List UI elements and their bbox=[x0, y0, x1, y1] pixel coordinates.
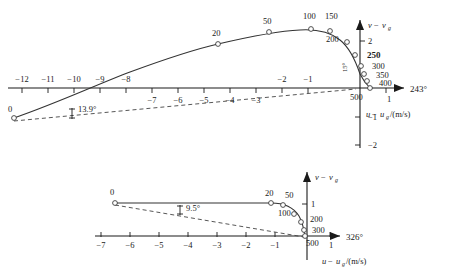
svg-text:−2: −2 bbox=[277, 74, 286, 84]
svg-text:−11: −11 bbox=[42, 74, 55, 84]
svg-text:0: 0 bbox=[110, 187, 114, 197]
svg-text:50: 50 bbox=[285, 190, 294, 200]
svg-text:200: 200 bbox=[326, 34, 339, 44]
mean-wind-dashed-top bbox=[14, 89, 356, 121]
mean-wind-dashed-bottom bbox=[115, 205, 304, 237]
svg-text:100: 100 bbox=[278, 208, 291, 218]
svg-text:−7: −7 bbox=[147, 95, 156, 105]
svg-text:−5: −5 bbox=[154, 240, 163, 250]
svg-text:v: v bbox=[382, 20, 386, 30]
svg-text:20: 20 bbox=[212, 28, 221, 38]
svg-text:−2: −2 bbox=[368, 140, 377, 150]
svg-text:−1: −1 bbox=[270, 240, 279, 250]
svg-text:−: − bbox=[372, 109, 377, 119]
svg-text:v: v bbox=[368, 20, 372, 30]
svg-text:−6: −6 bbox=[125, 240, 134, 250]
svg-text:/(m/s): /(m/s) bbox=[346, 256, 366, 266]
point-labels-bottom: 0 20 50 100 200 300 500 bbox=[110, 187, 325, 248]
x-axis-label-bottom: u − u g /(m/s) bbox=[322, 256, 366, 267]
svg-text:−3: −3 bbox=[251, 95, 260, 105]
svg-text:150: 150 bbox=[325, 11, 338, 21]
x-tick-labels-top: −12 −11 −10 −9 −8 −7 −6 −5 −4 −3 −2 −1 1 bbox=[15, 74, 391, 105]
data-markers-bottom bbox=[113, 201, 308, 239]
svg-text:/(m/s): /(m/s) bbox=[390, 109, 410, 119]
svg-text:u: u bbox=[380, 109, 384, 119]
svg-text:1: 1 bbox=[387, 94, 391, 104]
svg-text:g: g bbox=[335, 177, 338, 183]
hodograph-figure: −12 −11 −10 −9 −8 −7 −6 −5 −4 −3 −2 −1 1… bbox=[0, 0, 456, 276]
svg-text:2: 2 bbox=[368, 36, 372, 46]
svg-text:−4: −4 bbox=[183, 240, 193, 250]
x-ticks-top bbox=[22, 88, 386, 93]
hodograph-curve-bottom bbox=[115, 203, 305, 236]
svg-text:0: 0 bbox=[8, 104, 12, 114]
svg-text:250: 250 bbox=[367, 50, 381, 60]
svg-text:500: 500 bbox=[306, 238, 319, 248]
y-axis-top bbox=[356, 20, 364, 148]
svg-text:100: 100 bbox=[303, 11, 316, 21]
svg-text:200: 200 bbox=[310, 214, 323, 224]
svg-text:−10: −10 bbox=[67, 74, 80, 84]
svg-text:50: 50 bbox=[263, 16, 272, 26]
angle-marker-bottom bbox=[177, 205, 183, 215]
svg-text:u: u bbox=[336, 256, 340, 266]
svg-text:−1: −1 bbox=[303, 74, 312, 84]
angle-label-bottom: 9.5° bbox=[186, 203, 200, 213]
svg-text:u: u bbox=[366, 109, 370, 119]
y-axis-label-top: v − v g bbox=[368, 20, 391, 31]
panel-top-chart: −12 −11 −10 −9 −8 −7 −6 −5 −4 −3 −2 −1 1… bbox=[0, 0, 456, 160]
panel-bottom-chart: −7 −6 −5 −4 −3 −2 −1 1 1 0 20 50 100 200… bbox=[0, 160, 456, 276]
svg-text:g: g bbox=[342, 261, 345, 267]
direction-label-top: 243° bbox=[410, 84, 428, 94]
direction-label-bottom: 326° bbox=[346, 232, 364, 242]
angle-label-top: 13.9° bbox=[78, 104, 96, 114]
svg-text:−7: −7 bbox=[96, 240, 105, 250]
svg-text:g: g bbox=[388, 25, 391, 31]
svg-text:u: u bbox=[322, 256, 326, 266]
y-tick-label-bottom: 1 bbox=[311, 199, 315, 209]
svg-text:−: − bbox=[374, 20, 379, 30]
svg-text:−2: −2 bbox=[241, 240, 250, 250]
x-axis-top bbox=[8, 84, 404, 92]
svg-text:g: g bbox=[386, 114, 389, 120]
svg-text:300: 300 bbox=[312, 225, 325, 235]
x-tick-labels-bottom: −7 −6 −5 −4 −3 −2 −1 1 bbox=[96, 240, 333, 250]
svg-text:−6: −6 bbox=[173, 95, 182, 105]
x-axis-label-top: u − u g /(m/s) bbox=[366, 109, 410, 120]
data-markers-top bbox=[12, 27, 373, 121]
svg-text:−12: −12 bbox=[15, 74, 28, 84]
svg-text:−: − bbox=[328, 256, 333, 266]
rotated-note-top: 15° bbox=[341, 63, 348, 73]
svg-text:−: − bbox=[321, 172, 326, 182]
y-axis-label-bottom: v − v g bbox=[315, 172, 338, 183]
svg-text:−8: −8 bbox=[121, 74, 130, 84]
svg-text:1: 1 bbox=[329, 240, 333, 250]
svg-text:v: v bbox=[315, 172, 319, 182]
svg-text:500: 500 bbox=[350, 92, 363, 102]
svg-text:20: 20 bbox=[265, 188, 274, 198]
svg-text:400: 400 bbox=[379, 78, 392, 88]
svg-text:−3: −3 bbox=[212, 240, 221, 250]
angle-marker-top bbox=[69, 108, 75, 119]
svg-text:v: v bbox=[329, 172, 333, 182]
